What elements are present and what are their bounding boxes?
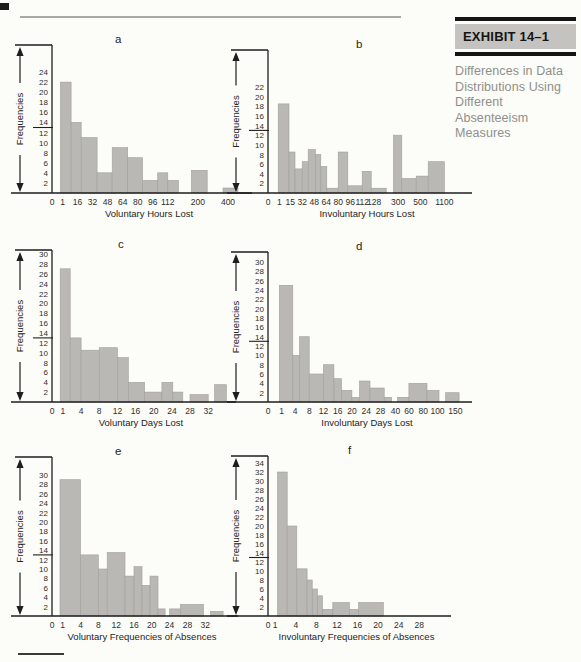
y-tick-label: 12 <box>255 558 264 567</box>
y-axis-title: Frequencies <box>230 301 241 354</box>
y-tick-label: 24 <box>39 68 48 77</box>
x-tick-label: 128 <box>367 197 381 207</box>
caption-line: Differences in Data <box>455 64 578 80</box>
y-tick-label: 22 <box>255 513 264 522</box>
y-tick-label: 20 <box>39 518 48 527</box>
chart-e: eFrequencies2468101214161820222426283001… <box>10 443 256 652</box>
bar <box>289 152 295 193</box>
x-tick-label: 16 <box>353 620 363 630</box>
bar <box>117 358 128 402</box>
bar <box>352 397 360 402</box>
bar <box>97 173 112 193</box>
bar <box>384 397 391 402</box>
y-tick-label: 8 <box>44 149 49 158</box>
y-tick-label: 20 <box>39 88 48 97</box>
bar <box>323 365 334 402</box>
bar <box>287 526 297 616</box>
y-tick-label: 4 <box>260 379 265 388</box>
x-tick-label: 80 <box>133 197 143 207</box>
bar <box>308 150 315 193</box>
y-tick-label: 28 <box>39 260 48 269</box>
bar <box>134 567 142 616</box>
bar <box>278 472 288 616</box>
bar <box>293 355 300 402</box>
y-tick-label: 8 <box>260 151 265 160</box>
y-tick-label: 16 <box>255 112 264 121</box>
bar <box>323 609 333 616</box>
y-tick-label: 2 <box>260 603 265 612</box>
y-tick-label: 30 <box>255 258 264 267</box>
bar <box>428 162 444 193</box>
x-tick-label: 24 <box>362 406 372 416</box>
x-tick-label: 96 <box>148 197 158 207</box>
bar <box>128 158 143 193</box>
chart-letter: e <box>115 445 121 457</box>
caption-line: Measures <box>455 126 578 142</box>
x-axis-title: Involuntary Hours Lost <box>319 208 414 219</box>
y-tick-label: 4 <box>260 170 265 179</box>
bar <box>215 385 227 402</box>
y-tick-label: 26 <box>39 270 48 279</box>
bar <box>309 374 323 402</box>
bar <box>409 383 427 402</box>
x-tick-label: 112 <box>161 197 175 207</box>
y-axis-title: Frequencies <box>14 510 25 563</box>
x-tick-label: 60 <box>404 406 414 416</box>
bar <box>393 135 401 193</box>
bar <box>402 179 416 194</box>
bar <box>173 392 183 402</box>
y-tick-label: 20 <box>255 522 264 531</box>
chart-a: aFrequencies2468101214161820222401163248… <box>10 30 256 222</box>
y-tick-label: 14 <box>39 118 48 127</box>
x-tick-label: 20 <box>147 620 157 630</box>
exhibit-top-rule <box>455 17 576 21</box>
x-tick-label: 1 <box>277 197 282 207</box>
x-tick-label: 0 <box>50 197 55 207</box>
arrow-down-icon <box>16 183 23 192</box>
exhibit-title-box: EXHIBIT 14–1 <box>455 24 576 49</box>
bar <box>338 152 348 193</box>
bar <box>302 162 308 193</box>
bar <box>60 269 70 402</box>
exhibit-caption: Differences in Data Distributions Using … <box>455 64 578 142</box>
y-tick-label: 34 <box>255 459 264 468</box>
x-tick-label: 28 <box>415 620 425 630</box>
chart-letter: d <box>356 240 362 252</box>
bar <box>427 390 439 402</box>
x-tick-label: 0 <box>50 406 55 416</box>
bar <box>143 180 158 193</box>
bar <box>307 580 312 616</box>
y-tick-label: 32 <box>255 468 264 477</box>
bar <box>180 604 203 616</box>
y-tick-label: 16 <box>255 323 264 332</box>
y-tick-label: 10 <box>255 141 264 150</box>
arrow-down-icon <box>232 606 239 615</box>
y-tick-label: 4 <box>44 378 49 387</box>
bar <box>125 576 134 616</box>
x-tick-label: 80 <box>333 197 343 207</box>
y-tick-label: 14 <box>39 329 48 338</box>
bar <box>327 188 338 193</box>
page: EXHIBIT 14–1 Differences in Data Distrib… <box>0 0 581 662</box>
caption-line: Different Absenteeism <box>455 95 578 126</box>
x-tick-label: 15 <box>285 197 295 207</box>
bar <box>446 393 460 402</box>
y-tick-label: 26 <box>39 490 48 499</box>
x-tick-label: 0 <box>50 620 55 630</box>
x-tick-label: 100 <box>430 406 444 416</box>
bar <box>98 569 107 616</box>
bar <box>158 609 165 616</box>
x-tick-label: 150 <box>448 406 462 416</box>
bar <box>81 555 99 616</box>
x-tick-label: 12 <box>332 620 342 630</box>
y-axis-title: Frequencies <box>230 95 241 148</box>
bar <box>348 186 362 193</box>
bar <box>300 337 310 402</box>
y-tick-label: 22 <box>39 509 48 518</box>
y-tick-label: 6 <box>44 368 49 377</box>
bar <box>60 82 71 193</box>
y-tick-label: 18 <box>255 531 264 540</box>
x-tick-label: 1100 <box>435 197 454 207</box>
y-tick-label: 24 <box>255 286 264 295</box>
y-tick-label: 8 <box>260 361 265 370</box>
